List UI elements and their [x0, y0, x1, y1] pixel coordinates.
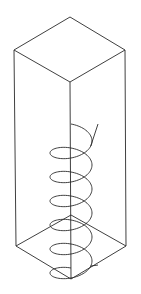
helix-in-box-diagram: [0, 0, 141, 294]
helix-top-tail: [91, 124, 98, 146]
helix-bottom-tail: [91, 265, 98, 266]
box-edge-front: [70, 82, 71, 279]
helix-coil: [50, 124, 98, 279]
box-edge-left: [14, 50, 16, 246]
diagram-canvas: [0, 0, 141, 294]
box-edge-right: [125, 50, 126, 246]
box-top-face: [14, 17, 125, 82]
